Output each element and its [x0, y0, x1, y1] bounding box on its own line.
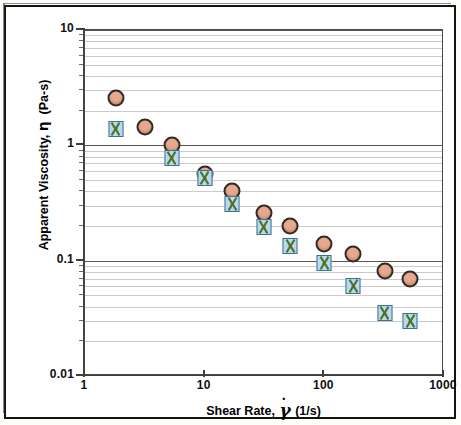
x-axis-tick-label: 100	[293, 378, 353, 392]
gridline-major	[85, 145, 442, 146]
data-point-square-x	[225, 196, 240, 212]
x-mark-center	[323, 262, 326, 265]
y-axis-minor-tick	[79, 64, 83, 65]
gridline-minor	[85, 163, 442, 164]
gridline-minor	[85, 191, 442, 192]
y-axis-minor-tick	[79, 320, 83, 321]
x-axis-title-prefix: Shear Rate,	[206, 404, 275, 418]
x-mark-center	[170, 156, 173, 159]
eta-symbol: η	[35, 121, 51, 131]
x-mark-center	[231, 203, 234, 206]
y-axis-minor-tick	[79, 205, 83, 206]
y-axis-minor-tick	[79, 306, 83, 307]
y-axis-minor-tick	[79, 340, 83, 341]
x-mark-center	[383, 312, 386, 315]
y-axis-minor-tick	[79, 285, 83, 286]
x-axis-title: Shear Rate, γ· (1/s)	[84, 399, 443, 419]
data-point-square-x	[346, 278, 361, 294]
x-axis-tick-label: 1	[54, 378, 114, 392]
y-axis-tick-label: 1	[30, 136, 74, 150]
gridline-minor	[85, 35, 442, 36]
y-axis-tick	[76, 143, 83, 145]
gridline-minor	[85, 56, 442, 57]
x-axis-tick-label: 1000	[413, 378, 461, 392]
data-point-square-x	[256, 219, 271, 235]
x-axis-tick	[322, 370, 324, 377]
data-point-circle	[376, 262, 393, 279]
y-axis-title-units: (Pa-s)	[37, 80, 51, 115]
y-axis-minor-tick	[79, 40, 83, 41]
gridline-minor	[85, 151, 442, 152]
gridline-minor	[85, 157, 442, 158]
data-point-square-x	[197, 170, 212, 186]
data-point-circle	[107, 89, 124, 106]
data-point-circle	[345, 245, 362, 262]
y-axis-minor-tick	[79, 170, 83, 171]
y-axis-minor-tick	[79, 225, 83, 226]
gridline-minor	[85, 65, 442, 66]
y-axis-minor-tick	[79, 179, 83, 180]
x-axis-tick	[442, 370, 444, 377]
x-mark-center	[352, 285, 355, 288]
y-axis-minor-tick	[79, 162, 83, 163]
y-axis-minor-tick	[79, 278, 83, 279]
x-axis-tick	[203, 370, 205, 377]
gridline-minor	[85, 90, 442, 91]
gridline-minor	[85, 41, 442, 42]
data-point-square-x	[164, 150, 179, 166]
figure-border: Apparent Viscosity, η (Pa-s) Shear Rate,…	[4, 5, 456, 419]
plot-area	[84, 29, 443, 375]
gridline-minor	[85, 111, 442, 112]
y-axis-minor-tick	[79, 47, 83, 48]
x-mark-center	[262, 226, 265, 229]
gamma-dot-symbol: γ·	[278, 400, 291, 420]
y-axis-minor-tick	[79, 156, 83, 157]
y-axis-tick-label: 10	[30, 21, 74, 35]
y-axis-minor-tick	[79, 89, 83, 90]
gridline-minor	[85, 286, 442, 287]
gridline-minor	[85, 295, 442, 296]
screenshot-frame: Apparent Viscosity, η (Pa-s) Shear Rate,…	[0, 0, 461, 425]
y-axis-minor-tick	[79, 75, 83, 76]
gridline-minor	[85, 279, 442, 280]
y-axis-title-prefix: Apparent Viscosity,	[37, 135, 51, 251]
data-point-square-x	[317, 255, 332, 271]
gridline-minor	[85, 48, 442, 49]
data-point-square-x	[283, 238, 298, 254]
gridline-major	[85, 30, 442, 31]
x-axis-tick-label: 10	[174, 378, 234, 392]
x-mark-center	[289, 244, 292, 247]
y-axis-minor-tick	[79, 110, 83, 111]
x-mark-center	[114, 127, 117, 130]
data-point-square-x	[377, 305, 392, 321]
x-mark-center	[203, 177, 206, 180]
data-point-circle	[402, 270, 419, 287]
y-axis-minor-tick	[79, 294, 83, 295]
data-point-circle	[137, 118, 154, 135]
data-point-circle	[282, 217, 299, 234]
y-axis-tick	[76, 374, 83, 376]
gridline-major	[85, 261, 442, 262]
y-axis-tick-label: 0.1	[30, 252, 74, 266]
gridline-minor	[85, 171, 442, 172]
gridline-minor	[85, 76, 442, 77]
y-axis-minor-tick	[79, 265, 83, 266]
y-axis-minor-tick	[79, 55, 83, 56]
y-axis-minor-tick	[79, 190, 83, 191]
gridline-minor	[85, 341, 442, 342]
gridline-minor	[85, 180, 442, 181]
y-axis-minor-tick	[79, 150, 83, 151]
y-axis-tick	[76, 259, 83, 261]
x-axis-tick	[83, 370, 85, 377]
x-mark-center	[409, 320, 412, 323]
data-point-square-x	[108, 121, 123, 137]
y-axis-minor-tick	[79, 34, 83, 35]
y-axis-minor-tick	[79, 271, 83, 272]
data-point-circle	[316, 235, 333, 252]
y-axis-tick	[76, 28, 83, 30]
x-axis-title-units: (1/s)	[295, 404, 321, 418]
data-point-square-x	[403, 313, 418, 329]
